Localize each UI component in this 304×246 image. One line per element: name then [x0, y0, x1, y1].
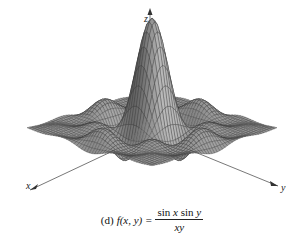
caption-denominator: xy [174, 220, 184, 233]
y-axis-label: y [281, 182, 285, 193]
surface-plot-figure: z x y (d) f(x, y) = sin x sin y xy [0, 0, 304, 246]
x-axis-line [30, 150, 115, 190]
y-axis-line [190, 150, 278, 186]
x-axis-label: x [26, 180, 30, 191]
z-axis-label: z [144, 13, 148, 24]
surface-mesh [27, 18, 277, 166]
caption-fraction: sin x sin y xy [155, 206, 203, 233]
num-sin-a: sin [157, 206, 170, 218]
z-axis-arrow-icon [148, 8, 153, 15]
num-var-a: x [173, 206, 178, 218]
caption-lhs: f(x, y) = [117, 214, 153, 226]
caption-label: (d) [101, 214, 114, 226]
num-var-b: y [196, 206, 201, 218]
x-axis-arrow-icon [30, 184, 38, 190]
figure-caption: (d) f(x, y) = sin x sin y xy [0, 206, 304, 233]
caption-numerator: sin x sin y [155, 206, 203, 220]
y-axis-arrow-icon [270, 181, 278, 186]
num-sin-b: sin [181, 206, 194, 218]
